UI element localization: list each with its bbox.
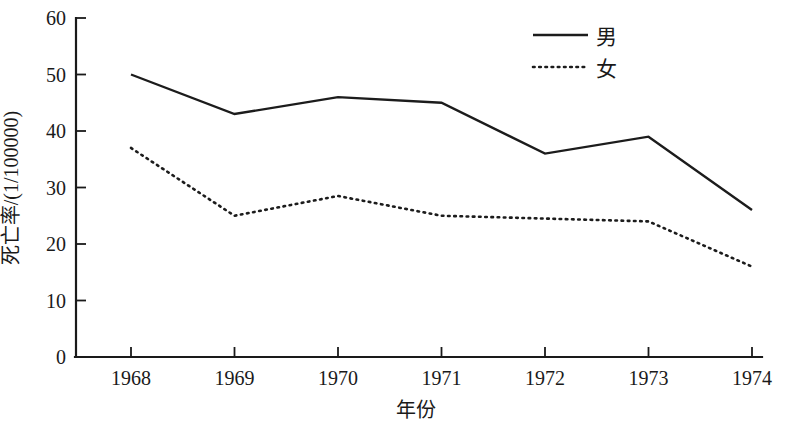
y-tick-label: 10 bbox=[46, 290, 66, 312]
x-tick-label: 1974 bbox=[732, 367, 772, 389]
x-axis-title: 年份 bbox=[396, 399, 436, 421]
series-group bbox=[131, 75, 752, 267]
chart-legend: 男 女 bbox=[533, 25, 617, 81]
series-line-male bbox=[131, 75, 752, 211]
x-tick-label: 1968 bbox=[111, 367, 151, 389]
y-tick-label: 30 bbox=[46, 177, 66, 199]
x-tick-label: 1970 bbox=[318, 367, 358, 389]
x-tick-label: 1973 bbox=[629, 367, 669, 389]
chart-canvas: 0 10 20 30 40 50 60 1968 1969 1970 1971 bbox=[0, 0, 788, 427]
y-axis-ticks: 0 10 20 30 40 50 60 bbox=[46, 7, 86, 368]
chart-axes bbox=[75, 18, 762, 357]
legend-label-female: 女 bbox=[596, 57, 617, 81]
y-tick-label: 50 bbox=[46, 64, 66, 86]
y-tick-label: 60 bbox=[46, 7, 66, 29]
y-tick-label: 0 bbox=[56, 346, 66, 368]
y-axis-title: 死亡率/(1/100000) bbox=[0, 111, 23, 265]
x-axis-ticks: 1968 1969 1970 1971 1972 1973 1974 bbox=[111, 347, 772, 389]
y-tick-label: 20 bbox=[46, 233, 66, 255]
series-line-female bbox=[131, 148, 752, 267]
x-tick-label: 1969 bbox=[215, 367, 255, 389]
line-chart: 0 10 20 30 40 50 60 1968 1969 1970 1971 bbox=[0, 0, 788, 427]
x-tick-label: 1972 bbox=[525, 367, 565, 389]
legend-label-male: 男 bbox=[596, 25, 617, 49]
x-tick-label: 1971 bbox=[422, 367, 462, 389]
y-tick-label: 40 bbox=[46, 120, 66, 142]
